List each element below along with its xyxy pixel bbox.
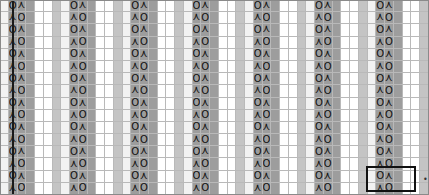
cell-yarn-over[interactable]: O: [9, 146, 18, 158]
cell-decrease[interactable]: ⋏: [263, 122, 272, 134]
cell-knit-blank[interactable]: [175, 146, 184, 158]
cell-yarn-over[interactable]: O: [79, 134, 88, 146]
cell-decrease[interactable]: ⋏: [193, 134, 202, 146]
cell-decrease[interactable]: ⋏: [18, 146, 27, 158]
cell-decrease[interactable]: ⋏: [79, 49, 88, 61]
cell-knit-blank[interactable]: [333, 171, 342, 183]
cell-knit-blank[interactable]: [219, 98, 228, 110]
cell-knit-blank[interactable]: [114, 37, 123, 49]
cell-knit-blank[interactable]: [158, 12, 167, 24]
cell-knit-blank[interactable]: [298, 24, 307, 36]
cell-knit-blank[interactable]: [271, 37, 280, 49]
cell-decrease[interactable]: ⋏: [385, 98, 394, 110]
cell-knit-blank[interactable]: [350, 98, 359, 110]
cell-knit-blank[interactable]: [394, 24, 403, 36]
chart-row[interactable]: ⋏O⋏O⋏O⋏O⋏O⋏O⋏O: [0, 134, 429, 146]
cell-knit-blank[interactable]: [149, 158, 158, 170]
cell-knit-blank[interactable]: [105, 122, 114, 134]
cell-decrease[interactable]: ⋏: [315, 134, 324, 146]
cell-knit-blank[interactable]: [166, 37, 175, 49]
cell-decrease[interactable]: ⋏: [193, 37, 202, 49]
cell-knit-blank[interactable]: [420, 85, 429, 97]
cell-knit-blank[interactable]: [88, 146, 97, 158]
cell-knit-blank[interactable]: [306, 24, 315, 36]
cell-decrease[interactable]: ⋏: [385, 0, 394, 12]
cell-knit-blank[interactable]: [271, 61, 280, 73]
cell-knit-blank[interactable]: [333, 183, 342, 195]
cell-knit-blank[interactable]: [280, 122, 289, 134]
cell-knit-blank[interactable]: [333, 61, 342, 73]
cell-decrease[interactable]: ⋏: [140, 122, 149, 134]
cell-decrease[interactable]: ⋏: [201, 0, 210, 12]
cell-knit-blank[interactable]: [158, 73, 167, 85]
chart-row[interactable]: O⋏O⋏O⋏O⋏O⋏O⋏O⋏: [0, 0, 429, 12]
cell-knit-blank[interactable]: [210, 183, 219, 195]
cell-knit-blank[interactable]: [341, 122, 350, 134]
cell-decrease[interactable]: ⋏: [131, 110, 140, 122]
cell-knit-blank[interactable]: [0, 134, 9, 146]
cell-decrease[interactable]: ⋏: [376, 61, 385, 73]
cell-knit-blank[interactable]: [166, 171, 175, 183]
cell-yarn-over[interactable]: O: [18, 110, 27, 122]
cell-knit-blank[interactable]: [61, 146, 70, 158]
cell-yarn-over[interactable]: O: [131, 0, 140, 12]
cell-decrease[interactable]: ⋏: [254, 110, 263, 122]
cell-knit-blank[interactable]: [403, 24, 412, 36]
cell-knit-blank[interactable]: [158, 98, 167, 110]
cell-knit-blank[interactable]: [219, 12, 228, 24]
cell-knit-blank[interactable]: [280, 146, 289, 158]
cell-knit-blank[interactable]: [184, 49, 193, 61]
cell-knit-blank[interactable]: [210, 134, 219, 146]
cell-decrease[interactable]: ⋏: [324, 73, 333, 85]
cell-decrease[interactable]: ⋏: [201, 73, 210, 85]
cell-knit-blank[interactable]: [210, 24, 219, 36]
cell-knit-blank[interactable]: [35, 37, 44, 49]
cell-knit-blank[interactable]: [359, 146, 368, 158]
cell-knit-blank[interactable]: [166, 73, 175, 85]
cell-knit-blank[interactable]: [105, 37, 114, 49]
cell-yarn-over[interactable]: O: [315, 24, 324, 36]
cell-knit-blank[interactable]: [368, 146, 377, 158]
cell-knit-blank[interactable]: [403, 134, 412, 146]
cell-knit-blank[interactable]: [333, 85, 342, 97]
cell-knit-blank[interactable]: [158, 24, 167, 36]
cell-yarn-over[interactable]: O: [254, 146, 263, 158]
cell-knit-blank[interactable]: [289, 183, 298, 195]
cell-knit-blank[interactable]: [35, 183, 44, 195]
cell-knit-blank[interactable]: [166, 49, 175, 61]
cell-knit-blank[interactable]: [0, 73, 9, 85]
cell-knit-blank[interactable]: [245, 37, 254, 49]
cell-yarn-over[interactable]: O: [315, 0, 324, 12]
cell-knit-blank[interactable]: [96, 171, 105, 183]
cell-knit-blank[interactable]: [219, 134, 228, 146]
cell-knit-blank[interactable]: [350, 12, 359, 24]
cell-knit-blank[interactable]: [245, 49, 254, 61]
cell-yarn-over[interactable]: O: [193, 98, 202, 110]
cell-yarn-over[interactable]: O: [79, 110, 88, 122]
cell-knit-blank[interactable]: [210, 0, 219, 12]
cell-knit-blank[interactable]: [298, 61, 307, 73]
cell-yarn-over[interactable]: O: [254, 0, 263, 12]
cell-decrease[interactable]: ⋏: [131, 61, 140, 73]
cell-decrease[interactable]: ⋏: [193, 12, 202, 24]
cell-knit-blank[interactable]: [114, 98, 123, 110]
cell-decrease[interactable]: ⋏: [140, 146, 149, 158]
cell-knit-blank[interactable]: [0, 37, 9, 49]
cell-knit-blank[interactable]: [149, 122, 158, 134]
cell-knit-blank[interactable]: [44, 122, 53, 134]
cell-knit-blank[interactable]: [53, 122, 62, 134]
cell-knit-blank[interactable]: [149, 61, 158, 73]
cell-knit-blank[interactable]: [228, 134, 237, 146]
chart-row[interactable]: O⋏O⋏O⋏O⋏O⋏O⋏O⋏: [0, 24, 429, 36]
cell-knit-blank[interactable]: [341, 12, 350, 24]
chart-row[interactable]: O⋏O⋏O⋏O⋏O⋏O⋏O⋏: [0, 73, 429, 85]
cell-knit-blank[interactable]: [306, 73, 315, 85]
cell-decrease[interactable]: ⋏: [376, 110, 385, 122]
cell-decrease[interactable]: ⋏: [18, 171, 27, 183]
cell-knit-blank[interactable]: [210, 49, 219, 61]
chart-grid[interactable]: O⋏O⋏O⋏O⋏O⋏O⋏O⋏⋏O⋏O⋏O⋏O⋏O⋏O⋏OO⋏O⋏O⋏O⋏O⋏O⋏…: [0, 0, 429, 195]
cell-yarn-over[interactable]: O: [376, 49, 385, 61]
cell-yarn-over[interactable]: O: [376, 98, 385, 110]
cell-knit-blank[interactable]: [166, 146, 175, 158]
cell-yarn-over[interactable]: O: [140, 158, 149, 170]
